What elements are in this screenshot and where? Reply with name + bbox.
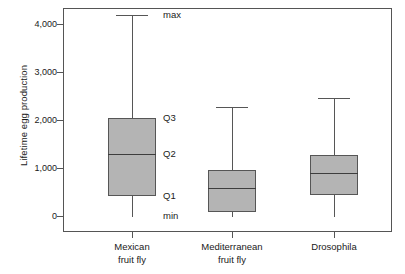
x-category-mediterranean-line2: fruit fly (167, 253, 297, 266)
x-category-mediterranean-line1: Mediterranean (201, 241, 262, 252)
upper-whisker-line (232, 107, 233, 170)
upper-whisker-line (334, 98, 335, 155)
y-tick-label-2000: 2,000 (0, 116, 57, 125)
lower-whisker-line (132, 196, 133, 217)
median-line (208, 188, 256, 189)
annotation-q1: Q1 (163, 191, 176, 201)
annotation-max: max (163, 10, 181, 20)
boxplot-drosophila (310, 0, 358, 224)
x-tick-mark-drosophila (334, 232, 335, 238)
max-cap (116, 15, 148, 16)
max-cap (318, 98, 350, 99)
x-category-drosophila: Drosophila (269, 240, 399, 253)
box-iqr (108, 118, 156, 196)
x-category-mexican-line1: Mexican (114, 241, 149, 252)
median-line (108, 154, 156, 155)
boxplot-mexican-fruit-fly (108, 0, 156, 224)
boxplot-figure: Lifetime egg production 0 1,000 2,000 3,… (0, 0, 405, 274)
y-tick-label-3000: 3,000 (0, 68, 57, 77)
x-tick-mark-mexican (132, 232, 133, 238)
annotation-q3: Q3 (163, 113, 176, 123)
annotation-min: min (163, 211, 178, 221)
box-iqr (208, 170, 256, 212)
max-cap (216, 107, 248, 108)
lower-whisker-line (334, 195, 335, 217)
y-tick-label-0: 0 (0, 212, 57, 221)
upper-whisker-line (132, 15, 133, 118)
lower-whisker-line (232, 212, 233, 217)
y-tick-label-4000: 4,000 (0, 20, 57, 29)
median-line (310, 173, 358, 174)
boxplot-mediterranean-fruit-fly (208, 0, 256, 224)
box-iqr (310, 155, 358, 195)
x-category-drosophila-line1: Drosophila (311, 241, 356, 252)
y-tick-label-1000: 1,000 (0, 164, 57, 173)
x-tick-mark-mediterranean (232, 232, 233, 238)
annotation-q2: Q2 (163, 149, 176, 159)
